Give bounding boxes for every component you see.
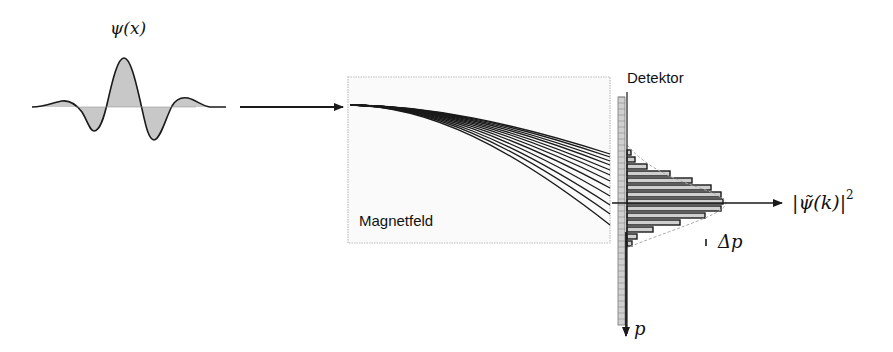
- delta-p-label: Δp: [718, 231, 743, 252]
- distribution-label-text: |ψ̃(k)|: [792, 191, 846, 213]
- wave-packet: [32, 58, 226, 140]
- distribution-label: |ψ̃(k)|2: [792, 188, 854, 213]
- detector-label: Detektor: [627, 69, 684, 86]
- histogram-bar: [627, 220, 680, 225]
- wavefunction-label: ψ(x): [110, 18, 146, 38]
- momentum-measurement-diagram: [0, 0, 893, 352]
- wavefunction-label-text: ψ(x): [110, 18, 146, 38]
- histogram-bar: [627, 227, 653, 232]
- momentum-histogram: [627, 150, 723, 246]
- histogram-bar: [627, 192, 721, 197]
- magnetic-field-label: Magnetfeld: [359, 212, 433, 229]
- histogram-bar: [627, 234, 637, 239]
- distribution-power: 2: [846, 188, 854, 202]
- histogram-bar: [627, 213, 705, 218]
- wave-packet-fill: [32, 58, 226, 140]
- histogram-bar: [627, 241, 632, 246]
- histogram-bar: [627, 185, 711, 190]
- histogram-bar: [627, 164, 647, 169]
- histogram-bar: [627, 206, 721, 211]
- histogram-bar: [627, 178, 692, 183]
- histogram-bar: [627, 157, 635, 162]
- detector-strip: [618, 97, 625, 325]
- momentum-axis-label: p: [634, 318, 646, 339]
